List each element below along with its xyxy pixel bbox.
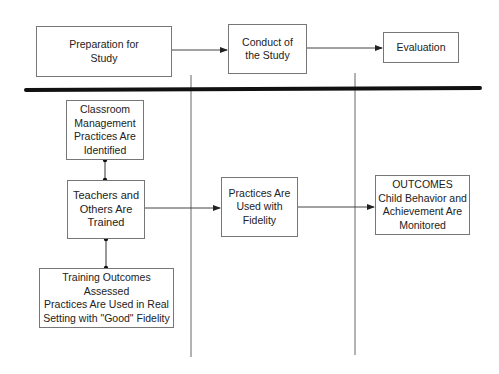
phase-preparation-box: Preparation for Study [36, 26, 172, 77]
step-trained-label: Teachers and Others Are Trained [73, 189, 139, 230]
step-identified-label: Classroom Management Practices Are Ident… [74, 103, 136, 157]
phase-evaluation-label: Evaluation [396, 41, 445, 55]
step-outcomes-box: OUTCOMES Child Behavior and Achievement … [375, 175, 470, 235]
phase-preparation-label: Preparation for Study [69, 38, 138, 65]
thick-separator [26, 88, 480, 90]
step-fidelity-label: Practices Are Used with Fidelity [229, 187, 291, 228]
phase-evaluation-box: Evaluation [383, 32, 459, 63]
step-assessed-box: Training Outcomes Assessed Practices Are… [39, 268, 174, 328]
step-trained-box: Teachers and Others Are Trained [67, 180, 145, 239]
step-identified-box: Classroom Management Practices Are Ident… [66, 100, 144, 160]
phase-conduct-box: Conduct of the Study [228, 24, 307, 74]
step-fidelity-box: Practices Are Used with Fidelity [221, 177, 298, 237]
step-outcomes-label: OUTCOMES Child Behavior and Achievement … [378, 178, 467, 232]
step-assessed-label: Training Outcomes Assessed Practices Are… [43, 271, 170, 325]
phase-conduct-label: Conduct of the Study [242, 36, 293, 63]
